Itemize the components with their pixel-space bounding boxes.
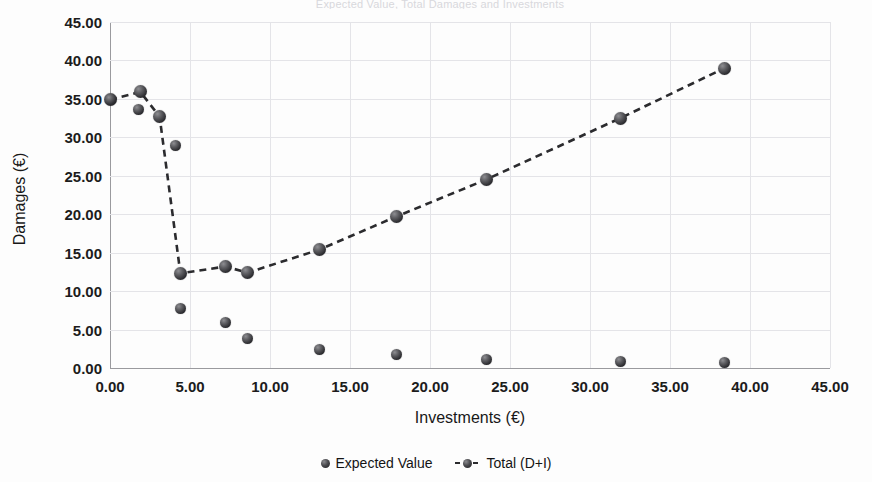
total-line-marker-icon: [455, 458, 481, 468]
chart-title-faint: Expected Value, Total Damages and Invest…: [180, 0, 700, 9]
data-point-marker: [174, 267, 187, 280]
data-point-marker: [153, 110, 166, 123]
y-axis-tick-label: 25.00: [40, 167, 102, 184]
data-point-marker: [481, 354, 492, 365]
gridline-horizontal: [110, 291, 830, 292]
x-axis-tick-label: 30.00: [571, 378, 609, 395]
y-axis-tick-label: 45.00: [40, 14, 102, 31]
y-axis-title: Damages (€): [11, 109, 29, 289]
data-point-marker: [390, 210, 403, 223]
data-point-marker: [313, 243, 326, 256]
y-axis-tick-label: 0.00: [40, 360, 102, 377]
x-axis-tick-label: 40.00: [731, 378, 769, 395]
data-point-marker: [314, 344, 325, 355]
y-axis-tick-label: 30.00: [40, 129, 102, 146]
gridline-horizontal: [110, 330, 830, 331]
gridline-vertical: [350, 22, 351, 368]
data-point-marker: [480, 173, 493, 186]
expected-value-marker-icon: [321, 459, 330, 468]
x-axis-tick-label: 25.00: [491, 378, 529, 395]
gridline-horizontal: [110, 22, 830, 23]
x-axis-tick-label: 0.00: [95, 378, 124, 395]
data-point-marker: [175, 303, 186, 314]
data-point-marker: [242, 333, 253, 344]
x-axis-tick-label: 35.00: [651, 378, 689, 395]
y-axis-tick-labels: 0.005.0010.0015.0020.0025.0030.0035.0040…: [34, 0, 102, 482]
gridline-horizontal: [110, 253, 830, 254]
y-axis-tick-label: 15.00: [40, 244, 102, 261]
y-axis-tick-label: 20.00: [40, 206, 102, 223]
data-point-marker: [719, 357, 730, 368]
gridline-horizontal: [110, 137, 830, 138]
x-axis-line: [110, 368, 830, 369]
legend-label-expected-value: Expected Value: [336, 455, 433, 471]
y-axis-tick-label: 10.00: [40, 283, 102, 300]
legend-item-total[interactable]: Total (D+I): [455, 455, 552, 471]
data-point-marker: [615, 356, 626, 367]
gridline-vertical: [670, 22, 671, 368]
data-point-marker: [391, 349, 402, 360]
y-axis-tick-label: 35.00: [40, 90, 102, 107]
data-point-marker: [220, 317, 231, 328]
x-axis-tick-label: 15.00: [331, 378, 369, 395]
chart-figure: Expected Value, Total Damages and Invest…: [0, 0, 872, 482]
gridline-vertical: [830, 22, 831, 368]
gridline-horizontal: [110, 99, 830, 100]
data-point-marker: [133, 104, 144, 115]
data-point-marker: [614, 112, 627, 125]
gridline-horizontal: [110, 176, 830, 177]
data-point-marker: [170, 140, 181, 151]
gridline-vertical: [190, 22, 191, 368]
gridline-vertical: [750, 22, 751, 368]
data-point-marker: [105, 94, 116, 105]
x-axis-tick-label: 5.00: [175, 378, 204, 395]
y-axis-tick-label: 5.00: [40, 321, 102, 338]
legend-label-total: Total (D+I): [487, 455, 552, 471]
x-axis-tick-label: 45.00: [811, 378, 849, 395]
x-axis-tick-label: 10.00: [251, 378, 289, 395]
gridline-vertical: [590, 22, 591, 368]
gridline-vertical: [270, 22, 271, 368]
x-axis-tick-label: 20.00: [411, 378, 449, 395]
gridline-vertical: [430, 22, 431, 368]
data-point-marker: [718, 62, 731, 75]
data-point-marker: [219, 260, 232, 273]
chart-legend: Expected Value Total (D+I): [0, 455, 872, 471]
data-point-marker: [241, 266, 254, 279]
y-axis-tick-label: 40.00: [40, 52, 102, 69]
x-axis-title: Investments (€): [110, 409, 830, 427]
legend-item-expected-value[interactable]: Expected Value: [321, 455, 433, 471]
plot-area: [110, 22, 830, 368]
gridline-horizontal: [110, 214, 830, 215]
data-point-marker: [134, 85, 147, 98]
gridline-vertical: [510, 22, 511, 368]
